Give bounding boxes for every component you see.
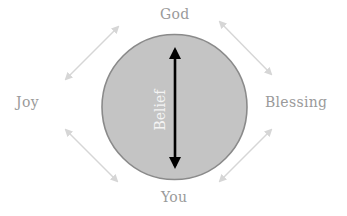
center-label-belief: Belief — [152, 90, 168, 131]
node-label-you: You — [161, 189, 187, 205]
node-label-god: God — [160, 6, 189, 22]
arrow-joy-god — [66, 27, 118, 79]
node-label-blessing: Blessing — [265, 94, 327, 110]
belief-diagram: God You Joy Blessing Belief — [0, 0, 347, 216]
node-label-joy: Joy — [16, 94, 39, 110]
